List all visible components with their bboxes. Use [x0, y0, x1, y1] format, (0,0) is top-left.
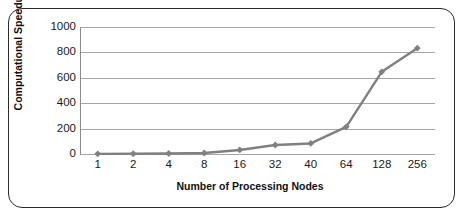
chart-plot-area: 02004006008001000 Computational Speedup …: [0, 0, 466, 224]
data-point-marker: [130, 150, 137, 157]
data-point-marker: [201, 150, 208, 157]
series-polyline: [98, 48, 418, 154]
series-markers: [94, 45, 420, 157]
chart-figure: 02004006008001000 Computational Speedup …: [0, 0, 466, 224]
data-point-marker: [165, 150, 172, 157]
data-point-marker: [236, 147, 243, 154]
series-line-computational-speedup: [0, 0, 466, 224]
data-point-marker: [94, 150, 101, 157]
data-point-marker: [272, 142, 279, 149]
